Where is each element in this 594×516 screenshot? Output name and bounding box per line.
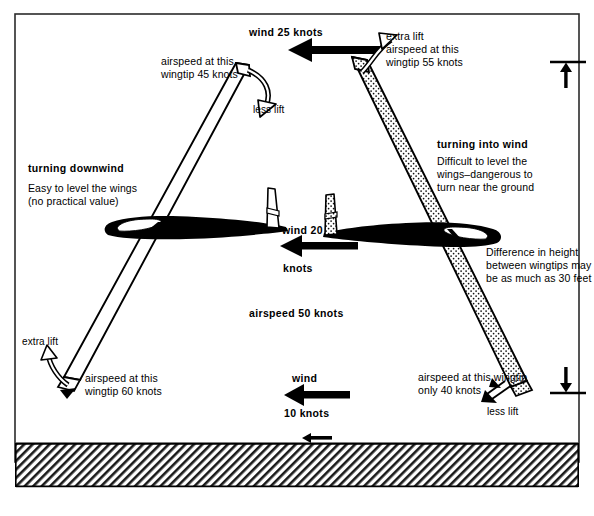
callout-turning-into-wind-heading: turning into wind bbox=[437, 138, 528, 151]
wind-label-25: wind 25 knots bbox=[249, 26, 323, 39]
callout-turning-into-wind-body: Difficult to level the wings–dangerous t… bbox=[437, 155, 534, 194]
height-difference-note: Difference in height between wingtips ma… bbox=[486, 246, 591, 285]
wind-arrow-ground bbox=[302, 433, 332, 443]
wind-label-20: wind 20 bbox=[282, 224, 323, 237]
wind-arrow-25 bbox=[288, 38, 380, 62]
wind-arrow-10 bbox=[284, 384, 350, 406]
callout-turning-downwind-heading: turning downwind bbox=[28, 162, 124, 175]
callout-turning-downwind-body: Easy to level the wings (no practical va… bbox=[28, 182, 137, 208]
right-wing-blade bbox=[352, 57, 527, 387]
glider-right bbox=[323, 57, 532, 396]
airspeed-centre-label: airspeed 50 knots bbox=[249, 307, 344, 320]
lift-label-upper-left: less lift bbox=[253, 104, 284, 117]
wind-label-10: wind bbox=[292, 372, 317, 385]
lift-label-lower-right: less lift bbox=[487, 406, 518, 419]
ground-band bbox=[16, 443, 578, 487]
height-marker-bottom bbox=[550, 367, 586, 393]
wind-label-20-units: knots bbox=[283, 262, 313, 275]
lift-label-lower-left: extra lift bbox=[22, 336, 58, 349]
wingtip-label-lower-left: airspeed at this wingtip 60 knots bbox=[85, 372, 162, 398]
wind-label-10-units: 10 knots bbox=[284, 407, 329, 420]
wingtip-label-upper-left: airspeed at this wingtip 45 knots bbox=[161, 55, 238, 81]
wingtip-label-lower-right: airspeed at this wingtip only 40 knots bbox=[418, 371, 527, 397]
figure-canvas: wind 25 knots wind 20 knots wind 10 knot… bbox=[0, 0, 594, 516]
height-marker-top bbox=[550, 62, 586, 88]
wingtip-label-upper-right: extra lift airspeed at this wingtip 55 k… bbox=[386, 30, 463, 69]
